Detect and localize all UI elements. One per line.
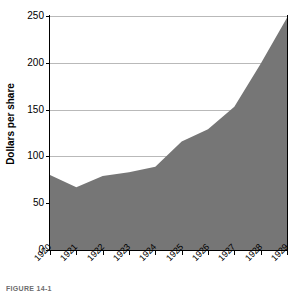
y-axis-title-wrap: Dollars per share [2,64,18,184]
y-tick-label-100: 100 [4,151,44,161]
plot-right-border [287,15,288,251]
figure-chart: Dollars per share 050100150200250 192019… [0,0,300,293]
y-tick-label-50: 50 [4,198,44,208]
y-tick-mark-150 [46,110,50,111]
figure-caption: FIGURE 14-1 [6,285,52,293]
y-tick-mark-100 [46,156,50,157]
area-polygon [50,18,287,250]
area-series [50,16,287,250]
y-tick-mark-250 [46,16,50,17]
y-tick-mark-200 [46,63,50,64]
y-axis-line [49,15,50,251]
y-tick-mark-50 [46,203,50,204]
y-tick-label-200: 200 [4,58,44,68]
y-tick-label-250: 250 [4,11,44,21]
y-tick-label-150: 150 [4,105,44,115]
